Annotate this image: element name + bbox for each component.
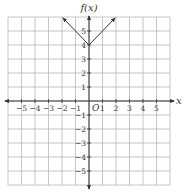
svg-text:4: 4	[81, 41, 86, 50]
svg-text:5: 5	[81, 27, 86, 36]
x-axis-label: x	[176, 95, 182, 106]
svg-text:1: 1	[100, 104, 105, 113]
svg-text:−4: −4	[29, 104, 40, 113]
svg-text:2: 2	[114, 104, 119, 113]
coordinate-plane: −5−4−3−2−112345−5−4−3−2−112345 f(x) x O	[0, 0, 186, 193]
svg-text:−5: −5	[16, 104, 27, 113]
svg-text:−3: −3	[43, 104, 54, 113]
svg-text:2: 2	[81, 69, 86, 78]
axes	[5, 16, 174, 189]
y-axis-label: f(x)	[79, 2, 97, 13]
svg-text:−5: −5	[75, 167, 86, 176]
svg-text:3: 3	[81, 55, 86, 64]
svg-text:−4: −4	[75, 153, 86, 162]
origin-label: O	[92, 103, 100, 113]
svg-text:−3: −3	[75, 139, 86, 148]
svg-text:−2: −2	[56, 104, 67, 113]
svg-text:5: 5	[154, 104, 159, 113]
svg-text:4: 4	[141, 104, 146, 113]
svg-text:−1: −1	[75, 111, 86, 120]
svg-text:1: 1	[81, 83, 86, 92]
svg-text:−2: −2	[75, 125, 86, 134]
svg-text:3: 3	[127, 104, 132, 113]
